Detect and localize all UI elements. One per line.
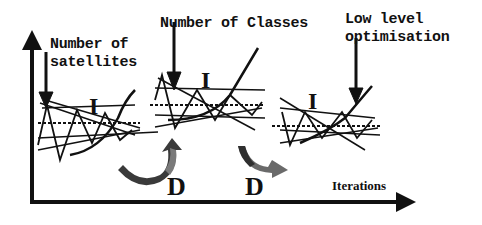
satellites-annotation-line1: Number of <box>50 36 128 53</box>
panel-1-label: I <box>89 93 98 120</box>
satellites-annotation-line2: satellites <box>50 54 137 71</box>
lowlevel-annotation-line2: optimisation <box>345 29 449 46</box>
diagram-canvas: Number of satellites Number of Classes L… <box>0 0 482 225</box>
panel-2-label: I <box>201 67 210 94</box>
classes-annotation: Number of Classes <box>160 15 308 32</box>
x-axis-label: Iterations <box>332 178 386 194</box>
x-axis <box>30 192 416 212</box>
lowlevel-annotation-line1: Low level <box>345 11 423 28</box>
transition-2-label: D <box>245 172 264 202</box>
panel-3-label: I <box>308 88 317 115</box>
panel-3-graph <box>272 38 380 150</box>
y-axis <box>22 30 42 204</box>
transition-1-label: D <box>167 172 186 202</box>
